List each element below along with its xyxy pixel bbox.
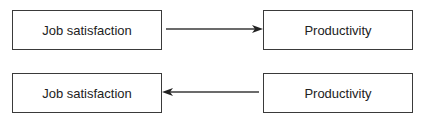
arrow-left-icon bbox=[162, 88, 259, 96]
arrows-layer bbox=[0, 0, 421, 121]
arrow-right-icon bbox=[166, 25, 263, 33]
